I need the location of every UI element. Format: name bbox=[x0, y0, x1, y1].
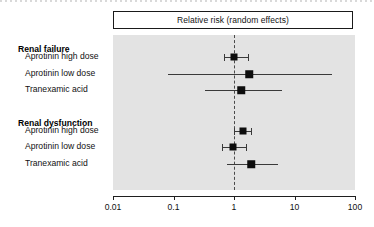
study-label-4: Aprotinin high dose bbox=[25, 125, 99, 135]
ci-cap-4-lower bbox=[234, 128, 235, 135]
x-tick-label-2: 1 bbox=[232, 202, 237, 212]
ci-cap-1-lower bbox=[224, 54, 225, 61]
point-estimate-marker-2 bbox=[245, 70, 253, 78]
chart-title: Relative risk (random effects) bbox=[114, 15, 352, 25]
point-estimate-marker-1 bbox=[231, 54, 238, 61]
forest-plot-figure: Relative risk (random effects) Renal fai… bbox=[0, 0, 374, 227]
x-tick-label-0: 0.01 bbox=[105, 202, 122, 212]
point-estimate-marker-4 bbox=[239, 128, 246, 135]
x-tick-label-3: 10 bbox=[290, 202, 300, 212]
scan-edge-artifact bbox=[0, 0, 374, 2]
study-label-3: Tranexamic acid bbox=[25, 84, 88, 94]
x-tick-1 bbox=[174, 196, 175, 200]
ci-cap-4-upper bbox=[251, 128, 252, 135]
x-tick-label-1: 0.1 bbox=[168, 202, 180, 212]
ci-cap-1-upper bbox=[248, 54, 249, 61]
study-label-1: Aprotinin high dose bbox=[25, 51, 99, 61]
x-tick-4 bbox=[355, 196, 356, 200]
plot-panel bbox=[113, 35, 355, 190]
x-tick-3 bbox=[295, 196, 296, 200]
x-tick-label-4: 100 bbox=[348, 202, 362, 212]
study-label-2: Aprotinin low dose bbox=[25, 68, 95, 78]
x-tick-2 bbox=[234, 196, 235, 200]
chart-title-box: Relative risk (random effects) bbox=[113, 11, 353, 29]
study-label-5: Aprotinin low dose bbox=[25, 141, 95, 151]
point-estimate-marker-3 bbox=[238, 86, 246, 94]
point-estimate-marker-5 bbox=[230, 144, 237, 151]
x-tick-0 bbox=[113, 196, 114, 200]
point-estimate-marker-6 bbox=[247, 160, 255, 168]
ci-cap-5-lower bbox=[222, 144, 223, 151]
ci-cap-5-upper bbox=[246, 144, 247, 151]
study-label-6: Tranexamic acid bbox=[25, 158, 88, 168]
